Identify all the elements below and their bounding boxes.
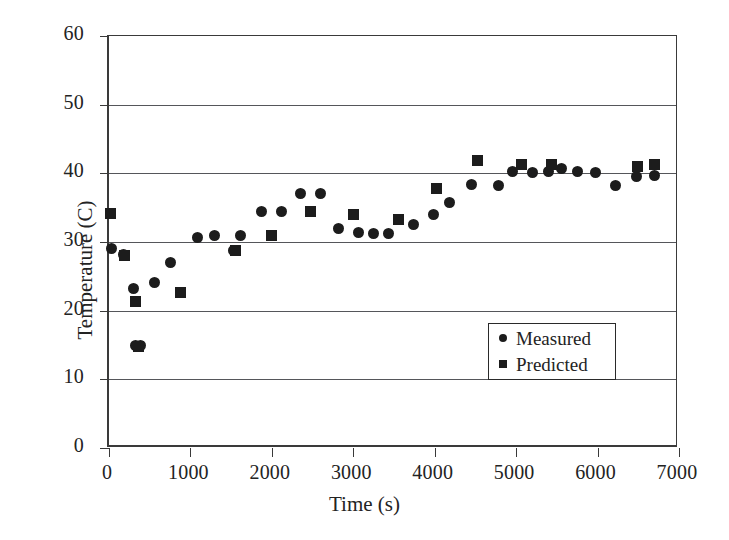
data-point-predicted: [546, 159, 557, 170]
data-point-measured: [149, 277, 160, 288]
data-point-predicted: [230, 245, 241, 256]
x-tick-label-7000: 7000: [657, 461, 698, 484]
gridline: [109, 311, 676, 312]
data-point-measured: [106, 243, 117, 254]
y-axis-tick: [100, 311, 109, 312]
data-point-measured: [572, 166, 583, 177]
data-point-measured: [276, 206, 287, 217]
data-point-measured: [295, 188, 306, 199]
data-point-measured: [408, 219, 419, 230]
data-point-predicted: [431, 183, 442, 194]
data-point-predicted: [133, 341, 144, 352]
y-tick-label-40: 40: [0, 159, 84, 182]
data-point-measured: [590, 167, 601, 178]
x-tick-label-2000: 2000: [249, 461, 290, 484]
data-point-predicted: [348, 209, 359, 220]
data-point-measured: [631, 171, 642, 182]
data-point-predicted: [266, 230, 277, 241]
y-axis-tick: [100, 448, 109, 449]
data-point-measured: [610, 180, 621, 191]
square-marker-icon: [499, 360, 507, 368]
x-axis-tick: [272, 448, 273, 457]
data-point-predicted: [130, 296, 141, 307]
legend-item-measured: Measured: [499, 326, 591, 350]
legend-label-predicted: Predicted: [516, 355, 588, 374]
x-axis-tick: [679, 448, 680, 457]
x-tick-label-3000: 3000: [331, 461, 372, 484]
data-point-measured: [315, 188, 326, 199]
data-point-measured: [493, 180, 504, 191]
data-point-measured: [383, 228, 394, 239]
x-axis-title: Time (s): [0, 492, 729, 517]
data-point-measured: [235, 230, 246, 241]
data-point-measured: [527, 167, 538, 178]
data-point-predicted: [632, 161, 643, 172]
y-tick-label-50: 50: [0, 91, 84, 114]
data-point-measured: [353, 227, 364, 238]
chart-figure: Temperature (C) 0102030405060 Measured P…: [0, 0, 729, 540]
data-point-predicted: [649, 159, 660, 170]
x-axis-tick: [516, 448, 517, 457]
chart-legend: Measured Predicted: [488, 323, 616, 380]
y-tick-label-10: 10: [0, 365, 84, 388]
x-tick-label-1000: 1000: [168, 461, 209, 484]
y-tick-label-20: 20: [0, 297, 84, 320]
gridline: [109, 105, 676, 106]
x-axis-tick: [353, 448, 354, 457]
data-point-measured: [333, 223, 344, 234]
y-axis-tick: [100, 36, 109, 37]
data-point-measured: [428, 209, 439, 220]
legend-item-predicted: Predicted: [499, 352, 588, 376]
y-tick-label-30: 30: [0, 228, 84, 251]
data-point-predicted: [175, 287, 186, 298]
y-axis-tick: [100, 379, 109, 380]
x-axis-tick: [435, 448, 436, 457]
data-point-measured: [368, 228, 379, 239]
y-tick-label-0: 0: [0, 434, 84, 457]
data-point-measured: [444, 197, 455, 208]
y-axis-tick: [100, 173, 109, 174]
x-axis-tick: [598, 448, 599, 457]
legend-label-measured: Measured: [516, 329, 591, 348]
data-point-predicted: [119, 250, 130, 261]
x-tick-label-6000: 6000: [575, 461, 616, 484]
data-point-predicted: [305, 206, 316, 217]
x-tick-label-5000: 5000: [494, 461, 535, 484]
data-point-measured: [165, 257, 176, 268]
data-point-measured: [649, 170, 660, 181]
circle-marker-icon: [499, 334, 507, 342]
data-point-measured: [466, 179, 477, 190]
y-tick-label-60: 60: [0, 22, 84, 45]
x-tick-label-0: 0: [102, 461, 112, 484]
x-axis-tick: [109, 448, 110, 457]
plot-area: Measured Predicted: [107, 35, 677, 447]
x-tick-label-4000: 4000: [412, 461, 453, 484]
data-point-predicted: [516, 159, 527, 170]
data-point-measured: [128, 283, 139, 294]
data-point-predicted: [393, 214, 404, 225]
data-point-measured: [209, 230, 220, 241]
data-point-measured: [256, 206, 267, 217]
y-axis-tick: [100, 105, 109, 106]
data-point-predicted: [105, 208, 116, 219]
data-point-predicted: [472, 155, 483, 166]
x-axis-tick: [190, 448, 191, 457]
